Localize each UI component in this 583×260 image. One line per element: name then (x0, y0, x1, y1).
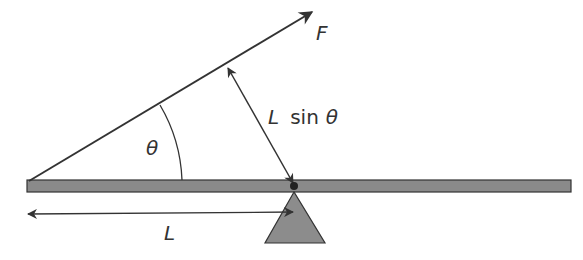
length-arrow (28, 212, 293, 214)
angle-arc (160, 105, 182, 180)
force-label: F (316, 21, 328, 45)
angle-label: θ (146, 136, 158, 160)
beam (27, 180, 571, 192)
length-label: L (164, 221, 175, 245)
fulcrum-triangle (265, 192, 325, 243)
moment-arm-L: L (268, 105, 279, 129)
pivot-point (290, 182, 298, 190)
torque-diagram: F θ L sin θ L (0, 0, 583, 260)
moment-arm-theta: θ (326, 105, 338, 129)
force-vector-arrow (29, 12, 312, 181)
moment-arm-label: L sin θ (268, 105, 338, 129)
moment-arm-sin: sin (290, 105, 319, 129)
